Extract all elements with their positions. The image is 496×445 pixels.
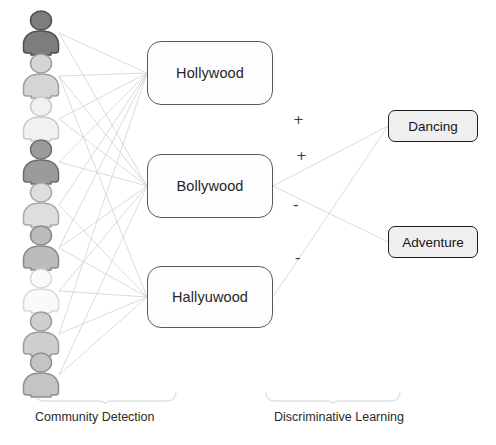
community-hallyuwood[interactable]: Hallyuwood [147, 266, 273, 328]
person-icon[interactable] [18, 52, 64, 100]
edge-user-community [59, 33, 147, 73]
stage-community-detection-label: Community Detection [35, 410, 155, 424]
category-dancing[interactable]: Dancing [388, 110, 478, 142]
sign-minus-1: - [293, 198, 298, 213]
edge-community-category [273, 126, 388, 297]
person-icon[interactable] [18, 267, 64, 315]
person-icon[interactable] [18, 224, 64, 272]
sign-minus-2: - [295, 251, 300, 266]
community-bollywood[interactable]: Bollywood [147, 154, 273, 218]
edge-user-community [59, 205, 147, 297]
category-label: Dancing [408, 119, 458, 134]
person-icon[interactable] [18, 95, 64, 143]
stage-brace [266, 392, 400, 404]
sign-plus-1: + [293, 113, 304, 126]
person-icon[interactable] [18, 138, 64, 186]
community-label: Hallyuwood [172, 289, 248, 305]
edge-user-community [59, 186, 147, 375]
person-icon[interactable] [18, 351, 64, 399]
edge-user-community [59, 162, 147, 186]
person-icon[interactable] [18, 181, 64, 229]
category-label: Adventure [402, 235, 464, 250]
edge-community-category [273, 186, 388, 242]
community-hollywood[interactable]: Hollywood [147, 41, 273, 105]
edge-community-category [273, 126, 388, 186]
category-adventure[interactable]: Adventure [388, 226, 478, 258]
edge-user-community [59, 119, 147, 186]
community-label: Bollywood [177, 178, 244, 194]
person-icon[interactable] [18, 9, 64, 57]
community-label: Hollywood [176, 65, 244, 81]
edge-user-community [59, 297, 147, 375]
diagram-canvas: HollywoodBollywoodHallyuwoodDancingAdven… [0, 0, 496, 445]
edge-user-community [59, 73, 147, 76]
sign-plus-2: + [296, 149, 307, 162]
edge-user-community [59, 73, 147, 248]
edge-user-community [59, 297, 147, 334]
edge-user-community [59, 248, 147, 297]
edge-user-community [59, 73, 147, 162]
stage-discriminative-learning-label: Discriminative Learning [274, 410, 404, 424]
